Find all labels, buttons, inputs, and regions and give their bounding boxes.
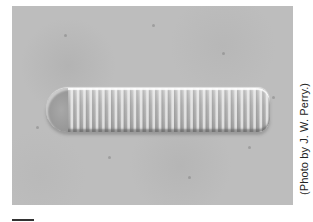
diatom-cell	[46, 88, 270, 132]
diatom-cell-end	[46, 88, 68, 132]
background-speck	[36, 126, 39, 129]
background-speck	[152, 24, 155, 27]
truncated-caption	[12, 217, 46, 222]
background-speck	[248, 146, 251, 149]
background-speck	[108, 156, 111, 159]
background-speck	[188, 176, 191, 179]
background-speck	[222, 52, 225, 55]
background-speck	[272, 96, 275, 99]
micrograph-photo	[12, 6, 293, 205]
caption-fragment	[12, 219, 34, 221]
photo-credit: (Photo by J. W. Perry.)	[298, 83, 310, 195]
background-speck	[64, 34, 67, 37]
